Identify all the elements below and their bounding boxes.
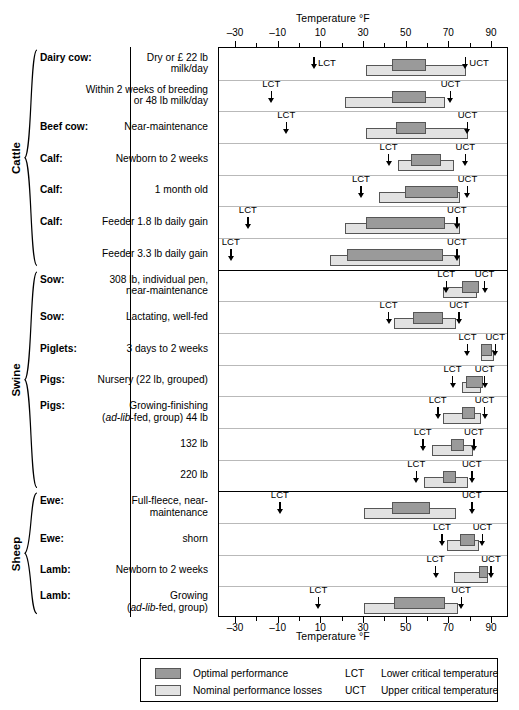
- x-tick-label-30: 30: [357, 27, 368, 38]
- row-label-bold: Piglets:: [40, 343, 77, 355]
- bar-optimal: [405, 186, 458, 198]
- x-tick-label--30: –30: [227, 27, 244, 38]
- x-tick-0: [299, 617, 300, 621]
- row-label: Dairy cow:Dry or £ 22 lbmilk/day: [40, 52, 208, 75]
- x-tick-label--30: –30: [227, 622, 244, 633]
- marker-label-lct: LCT: [427, 554, 445, 564]
- marker-label-uct: UCT: [469, 58, 489, 68]
- row-label: Pigs: Growing-finishing(ad-lib-fed, grou…: [40, 400, 208, 423]
- label-plot-divider: [130, 47, 131, 617]
- marker-label-uct: UCT: [462, 490, 482, 500]
- marker-label-lct: LCT: [309, 585, 327, 595]
- row-separator: [219, 365, 507, 366]
- row-label-text: 308 lb, individual pen,near-maintenance: [109, 274, 208, 297]
- marker-label-lct: LCT: [262, 79, 280, 89]
- marker-label-uct: UCT: [441, 79, 461, 89]
- marker-label-uct: UCT: [475, 395, 495, 405]
- x-tick-40: [384, 617, 385, 621]
- row-label: Calf:1 month old: [40, 184, 208, 196]
- row-label-bold: Calf:: [40, 184, 63, 196]
- bar-optimal: [392, 91, 426, 103]
- marker-label-uct: UCT: [458, 174, 478, 184]
- bar-optimal: [392, 502, 430, 514]
- row-separator: [219, 523, 507, 524]
- row-label-bold: Sow:: [40, 274, 64, 286]
- row-label-text: Dry or £ 22 lbmilk/day: [147, 52, 208, 75]
- bar-optimal: [394, 597, 445, 609]
- marker-label-uct: UCT: [447, 205, 467, 215]
- row-label-bold: Lamb:: [40, 590, 71, 602]
- row-label-bold: Lamb:: [40, 564, 71, 576]
- row-label: 132 lb: [40, 438, 208, 450]
- legend-swatch-nominal: [155, 685, 181, 696]
- bar-optimal: [413, 312, 443, 324]
- legend-note-lct: Lower critical temperature: [381, 668, 498, 679]
- bar-optimal: [347, 249, 443, 261]
- x-tick-80: [470, 617, 471, 621]
- marker-label-lct: LCT: [407, 459, 425, 469]
- row-separator: [219, 396, 507, 397]
- bar-optimal: [462, 281, 479, 293]
- row-label-bold: Calf:: [40, 216, 63, 228]
- row-label-text: Nursery (22 lb, grouped): [98, 374, 208, 385]
- row-label-text: Near-maintenance: [124, 121, 208, 132]
- bar-optimal: [462, 407, 475, 419]
- row-label: Ewe:shorn: [40, 533, 208, 545]
- row-label-bold: Beef cow:: [40, 121, 88, 133]
- x-tick-labels-bottom: –30–101030507090: [0, 622, 519, 636]
- x-tick-label-10: 10: [315, 27, 326, 38]
- marker-label-lct: LCT: [380, 300, 398, 310]
- row-label-bold: Ewe:: [40, 495, 64, 507]
- legend-swatch-optimal: [155, 668, 181, 679]
- row-label-bold: Dairy cow:: [40, 52, 92, 64]
- row-label: Calf:Newborn to 2 weeks: [40, 153, 208, 165]
- marker-label-lct: LCT: [318, 58, 336, 68]
- row-label: Pigs: Nursery (22 lb, grouped): [40, 374, 208, 386]
- x-tick-labels-top: –30–101030507090: [0, 27, 519, 41]
- x-tick-label-50: 50: [400, 622, 411, 633]
- marker-label-lct: LCT: [414, 427, 432, 437]
- row-label-text: Growing(ad-lib-fed, group): [127, 590, 208, 613]
- bar-optimal: [396, 122, 426, 134]
- row-label: Feeder 3.3 lb daily gain: [40, 248, 208, 260]
- group-brace: [24, 271, 38, 489]
- row-label-bold: Pigs:: [40, 400, 65, 412]
- marker-label-lct: LCT: [433, 522, 451, 532]
- row-label: Lamb:Growing(ad-lib-fed, group): [40, 590, 208, 613]
- marker-label-lct: LCT: [239, 205, 257, 215]
- row-label-text: Lactating, well-fed: [126, 311, 208, 322]
- bar-optimal: [479, 566, 488, 578]
- marker-label-uct: UCT: [485, 332, 505, 342]
- marker-label-uct: UCT: [449, 300, 469, 310]
- row-separator: [219, 555, 507, 556]
- row-label-text: 3 days to 2 weeks: [126, 343, 208, 354]
- row-label-text: Growing-finishing(ad-lib-fed, group) 44 …: [102, 400, 208, 423]
- marker-label-uct: UCT: [475, 269, 495, 279]
- marker-label-uct: UCT: [464, 427, 484, 437]
- row-label: Piglets:3 days to 2 weeks: [40, 343, 208, 355]
- row-label: 220 lb: [40, 469, 208, 481]
- group-name-swine: Swine: [10, 363, 22, 396]
- x-tick--20: [256, 617, 257, 621]
- marker-label-uct: UCT: [462, 459, 482, 469]
- axis-title-bottom: Temperature °F: [296, 630, 370, 642]
- marker-label-uct: UCT: [481, 554, 501, 564]
- figure-root: Temperature °F –30–101030507090 Dairy co…: [0, 0, 519, 710]
- marker-label-uct: UCT: [451, 585, 471, 595]
- legend-note-uct: Upper critical temperature: [381, 685, 498, 696]
- marker-label-lct: LCT: [222, 237, 240, 247]
- marker-label-uct: UCT: [473, 522, 493, 532]
- row-label-text: shorn: [183, 533, 208, 544]
- group-brace: [24, 49, 38, 267]
- marker-label-uct: UCT: [458, 110, 478, 120]
- group-name-cattle: Cattle: [10, 142, 22, 174]
- group-separator: [219, 270, 507, 271]
- marker-label-lct: LCT: [429, 395, 447, 405]
- marker-label-lct: LCT: [380, 142, 398, 152]
- bar-optimal: [460, 534, 475, 546]
- marker-label-lct: LCT: [444, 364, 462, 374]
- x-tick-label-90: 90: [485, 622, 496, 633]
- group-brace: [24, 492, 38, 615]
- marker-label-uct: UCT: [475, 364, 495, 374]
- row-label-text: Full-fleece, near-maintenance: [132, 495, 208, 518]
